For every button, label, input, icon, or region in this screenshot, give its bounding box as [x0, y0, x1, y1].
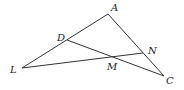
geometry-figure: A D L N M C — [0, 0, 184, 90]
label-d: D — [56, 32, 65, 43]
label-a: A — [110, 2, 118, 13]
segments-group — [22, 14, 164, 76]
label-m: M — [106, 61, 118, 72]
label-c: C — [166, 75, 174, 86]
label-n: N — [147, 45, 158, 56]
segment-ln — [22, 53, 143, 68]
label-l: L — [9, 64, 17, 75]
labels-group: A D L N M C — [9, 2, 174, 86]
